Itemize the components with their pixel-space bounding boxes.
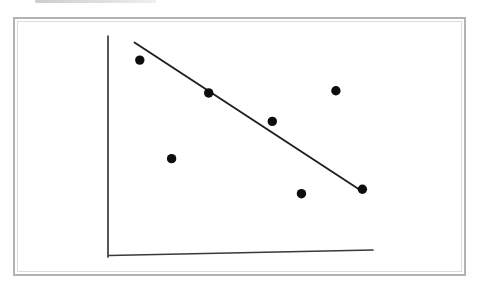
data-point — [297, 189, 306, 198]
data-point — [331, 86, 340, 95]
data-point — [204, 88, 213, 97]
data-point — [167, 154, 176, 163]
data-point — [135, 55, 144, 64]
trend-line — [135, 43, 363, 192]
data-point — [358, 185, 367, 194]
scatter-plot — [0, 0, 483, 289]
x-axis — [109, 250, 373, 256]
data-point — [268, 117, 277, 126]
figure-canvas — [0, 0, 483, 289]
